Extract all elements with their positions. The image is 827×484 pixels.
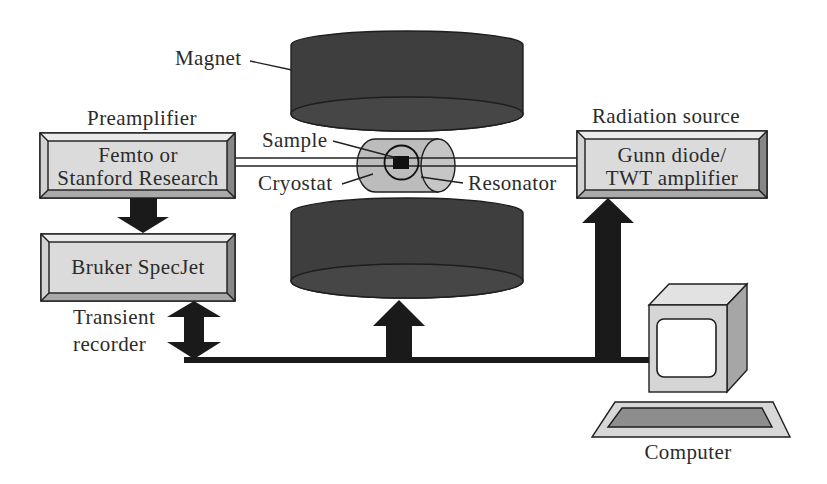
cryostat-label: Cryostat (258, 171, 332, 195)
bevel-bottom (577, 190, 767, 198)
keyboard-keys (608, 408, 772, 427)
resonator-label: Resonator (468, 171, 557, 195)
digitizer-line-1: Bruker SpecJet (71, 255, 204, 279)
bevel-top (40, 133, 235, 141)
bevel-top (577, 131, 767, 139)
control-bus-line (184, 357, 650, 363)
bevel-right (227, 234, 235, 301)
radiation-source-box: Gunn diode/ TWT amplifier (577, 131, 767, 198)
upper-magnet-pole-face (291, 97, 523, 131)
transient-recorder-label-1: Transient (73, 305, 155, 329)
bevel-top (41, 234, 235, 242)
bevel-left (577, 131, 585, 198)
preamplifier-label: Preamplifier (87, 106, 197, 130)
preamplifier-box: Femto or Stanford Research (40, 133, 235, 198)
bevel-bottom (40, 190, 235, 198)
radiation-source-label: Radiation source (592, 104, 740, 128)
bevel-right (227, 133, 235, 198)
transient-recorder-label-2: recorder (73, 332, 146, 356)
double-arrow-icon (167, 301, 221, 359)
arrow-up-to-source-icon (582, 198, 634, 360)
arrow-up-to-magnet-icon (373, 300, 425, 360)
source-line-2: TWT amplifier (606, 166, 739, 190)
lower-magnet-pole-face (291, 264, 523, 298)
upper-magnet (291, 31, 523, 131)
computer-label: Computer (644, 440, 731, 464)
bevel-right (759, 131, 767, 198)
arrow-down-icon (117, 198, 169, 233)
lower-magnet (291, 198, 523, 298)
source-line-1: Gunn diode/ (618, 143, 727, 167)
bevel-left (41, 234, 49, 301)
magnet-label: Magnet (175, 46, 242, 70)
sample-label: Sample (262, 128, 327, 152)
setup-diagram: Magnet Preamplifier Femto or Stanford Re… (0, 0, 827, 484)
monitor-screen (657, 319, 716, 377)
preamp-line-2: Stanford Research (57, 166, 218, 190)
preamp-line-1: Femto or (98, 143, 178, 167)
bevel-left (40, 133, 48, 198)
magnet-leader-line (250, 61, 292, 70)
bevel-bottom (41, 293, 235, 301)
digitizer-box: Bruker SpecJet (41, 234, 235, 301)
